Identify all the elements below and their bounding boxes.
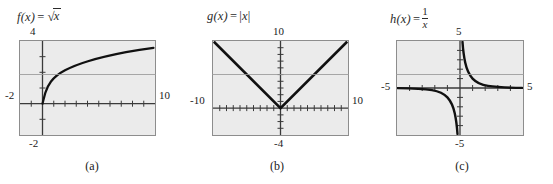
scan-streak-b bbox=[212, 74, 349, 75]
panel-b-label-bottom: -4 bbox=[274, 138, 283, 149]
panel-a-label-left: -2 bbox=[5, 90, 14, 101]
panel-b-label-left: -10 bbox=[190, 95, 205, 106]
scan-streak-a bbox=[19, 74, 156, 75]
panel-c-fraction: 1x bbox=[422, 6, 428, 30]
panel-b-formula: g(x)=|x| bbox=[207, 9, 250, 24]
panel-c-equals: = bbox=[411, 12, 422, 26]
scan-streak-c bbox=[396, 74, 524, 75]
panel-a-plot bbox=[19, 40, 156, 136]
panel-c-numerator: 1 bbox=[422, 6, 428, 18]
panel-c-function-name: h(x) bbox=[390, 12, 411, 26]
panel-b-caption: (b) bbox=[185, 159, 369, 174]
panel-c-curve-negative-branch bbox=[398, 88, 458, 134]
panel-c-label-left: -5 bbox=[381, 81, 390, 92]
panel-a-label-bottom: -2 bbox=[29, 138, 38, 149]
panel-a-equals: = bbox=[35, 10, 46, 24]
panel-c-label-top: 5 bbox=[456, 26, 462, 37]
figure-three-graphs: f(x)=√x bbox=[0, 0, 553, 184]
panel-b-abs-close: | bbox=[248, 9, 251, 23]
panel-b: g(x)=|x| bbox=[185, 0, 369, 184]
panel-b-svg bbox=[213, 41, 348, 135]
panel-a: f(x)=√x bbox=[0, 0, 184, 184]
panel-a-radicand: x bbox=[53, 8, 61, 24]
panel-c: h(x)=1x bbox=[370, 0, 553, 184]
panel-c-svg bbox=[397, 41, 523, 135]
panel-c-label-bottom: -5 bbox=[455, 138, 464, 149]
panel-b-label-top: 10 bbox=[273, 26, 284, 37]
panel-a-radical: √x bbox=[46, 9, 60, 25]
panel-b-function-name: g(x) bbox=[207, 9, 228, 23]
panel-a-function-name: f(x) bbox=[17, 10, 35, 24]
panel-a-label-right: 10 bbox=[159, 90, 170, 101]
panel-a-svg bbox=[20, 41, 155, 135]
panel-a-caption: (a) bbox=[0, 159, 184, 174]
panel-c-curve-positive-branch bbox=[463, 42, 523, 88]
panel-c-formula: h(x)=1x bbox=[390, 6, 428, 30]
panel-a-label-top: 4 bbox=[30, 26, 36, 37]
panel-c-plot bbox=[396, 40, 524, 136]
panel-b-plot bbox=[212, 40, 349, 136]
panel-c-label-right: 5 bbox=[527, 81, 533, 92]
panel-c-denominator: x bbox=[422, 18, 428, 31]
panel-a-formula: f(x)=√x bbox=[17, 9, 61, 25]
panel-b-label-right: 10 bbox=[352, 95, 363, 106]
panel-a-curve-sqrt bbox=[43, 48, 154, 104]
panel-c-caption: (c) bbox=[370, 159, 553, 174]
panel-b-equals: = bbox=[228, 9, 239, 23]
